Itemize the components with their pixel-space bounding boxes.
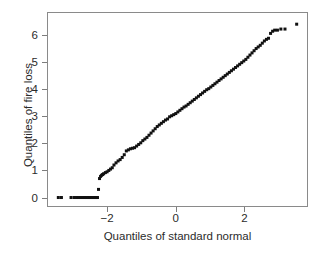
y-tick-label: 1 (32, 164, 38, 176)
y-tick-mark (42, 62, 47, 63)
y-tick-mark (42, 198, 47, 199)
y-tick-mark (42, 143, 47, 144)
y-tick-mark (42, 116, 47, 117)
y-tick-mark (42, 170, 47, 171)
x-tick-label: 2 (241, 212, 247, 224)
y-tick-label: 5 (32, 56, 38, 68)
x-tick-label: −2 (101, 212, 114, 224)
qq-plot-figure: Quantiles of standard normal Quantiles o… (0, 0, 323, 253)
plot-frame (47, 12, 308, 207)
y-tick-label: 4 (32, 83, 38, 95)
y-tick-mark (42, 35, 47, 36)
y-tick-label: 2 (32, 137, 38, 149)
y-tick-label: 3 (32, 110, 38, 122)
x-axis-label: Quantiles of standard normal (47, 230, 308, 242)
x-tick-label: 0 (173, 212, 179, 224)
y-tick-label: 0 (32, 192, 38, 204)
y-tick-mark (42, 89, 47, 90)
y-tick-label: 6 (32, 29, 38, 41)
